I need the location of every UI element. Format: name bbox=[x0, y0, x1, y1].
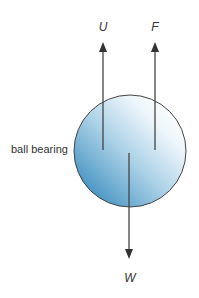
upthrust-label: U bbox=[99, 20, 108, 34]
ball-bearing-circle bbox=[74, 95, 186, 207]
drag-force-label: F bbox=[151, 20, 159, 34]
free-body-diagram: U F W ball bearing bbox=[0, 0, 199, 298]
weight-label: W bbox=[124, 271, 137, 285]
ball-bearing-label: ball bearing bbox=[11, 143, 68, 155]
